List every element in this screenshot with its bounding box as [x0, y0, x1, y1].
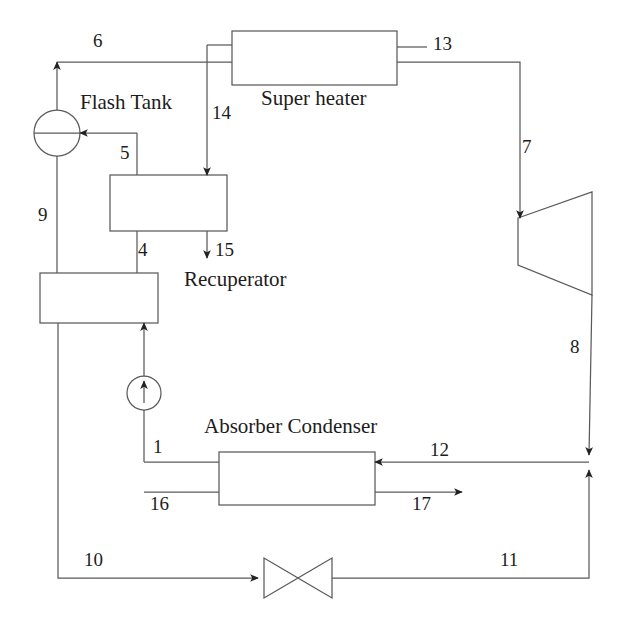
recuperator-body[interactable] [110, 175, 227, 231]
throttle-valve-body[interactable] [264, 558, 332, 598]
stream-label-12: 12 [430, 440, 449, 459]
absorber-condenser-body[interactable] [219, 452, 375, 505]
absorber-condenser-label: Absorber Condenser [204, 416, 377, 437]
stream-label-7: 7 [522, 137, 532, 156]
stream-label-8: 8 [570, 337, 580, 356]
turbine-body[interactable] [518, 192, 592, 295]
super-heater-body[interactable] [232, 31, 397, 85]
stream-label-13: 13 [433, 34, 452, 53]
stream-label-6: 6 [93, 31, 103, 50]
stream-label-10: 10 [84, 550, 103, 569]
stream-8-line [589, 295, 592, 455]
stream-label-1: 1 [153, 437, 163, 456]
super-heater-label: Super heater [261, 88, 367, 109]
stream-label-17: 17 [412, 494, 431, 513]
stream-label-4: 4 [138, 240, 148, 259]
stream-7-line [397, 62, 520, 218]
stream-11-run [332, 572, 589, 578]
stream-label-5: 5 [120, 143, 130, 162]
stream-label-16: 16 [150, 494, 169, 513]
stream-label-9: 9 [38, 205, 48, 224]
stream-label-11: 11 [500, 550, 518, 569]
stream-label-14: 14 [212, 103, 231, 122]
generator-body[interactable] [40, 273, 158, 323]
stream-label-15: 15 [215, 240, 234, 259]
recuperator-label: Recuperator [184, 269, 287, 290]
process-flow-diagram-canvas: Flash Tank Super heater Recuperator Abso… [0, 0, 619, 624]
flash-tank-label: Flash Tank [80, 92, 172, 113]
